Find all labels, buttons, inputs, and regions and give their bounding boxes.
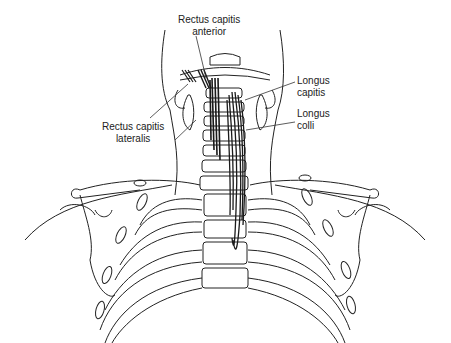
longus-capitis-muscle xyxy=(210,78,220,160)
rectus-capitis-lateralis-muscle xyxy=(182,70,196,82)
neck-illustration xyxy=(0,0,451,343)
label-line: capitis xyxy=(297,87,330,99)
label-line: colli xyxy=(297,120,330,132)
label-rectus-capitis-anterior: Rectus capitis anterior xyxy=(178,14,240,38)
ribs-right xyxy=(248,187,357,343)
label-line: lateralis xyxy=(102,133,164,145)
label-line: anterior xyxy=(178,26,240,38)
label-line: Rectus capitis xyxy=(178,14,240,26)
label-rectus-capitis-lateralis: Rectus capitis lateralis xyxy=(102,121,164,145)
label-line: Rectus capitis xyxy=(102,121,164,133)
label-longus-colli: Longus colli xyxy=(297,108,330,132)
label-line: Longus xyxy=(297,108,330,120)
label-longus-capitis: Longus capitis xyxy=(297,75,330,99)
label-line: Longus xyxy=(297,75,330,87)
thoracic-vertebrae xyxy=(202,194,248,288)
anatomy-diagram: Rectus capitis anterior Rectus capitis l… xyxy=(0,0,451,343)
